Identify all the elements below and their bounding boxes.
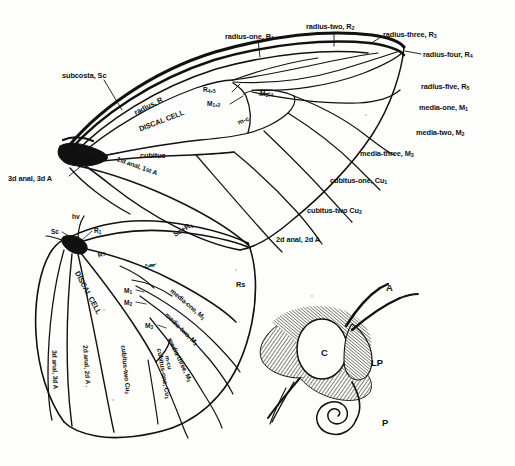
label-proboscis: P	[382, 418, 388, 427]
label-r-m: r-m	[145, 262, 154, 268]
forewing-radial-veins	[78, 51, 403, 157]
label-radius-two: radius-two, R2	[306, 23, 354, 32]
label-m1: M1	[124, 288, 132, 296]
label-labial-palp: LP	[371, 358, 383, 367]
label-radius-three: radius-three, R3	[383, 31, 437, 40]
head-detail-drawing	[260, 284, 418, 434]
label-cubitus-one: cubitus-one, Cu1	[330, 177, 387, 186]
label-second-anal: 2d anal, 2d A	[276, 236, 320, 243]
label-radius-one: radius-one, R1	[225, 33, 274, 42]
label-r1: R1	[94, 228, 101, 236]
label-sc: Sc	[51, 229, 59, 236]
label-rs-outer: Rs	[236, 281, 245, 288]
label-m34: M3+4	[260, 91, 273, 99]
wing-venation-figure: subcosta, Scradius, RDISCAL CELLcubitus1…	[0, 0, 515, 466]
label-r45: R4+5	[203, 87, 215, 95]
label-m2: M2	[124, 300, 132, 308]
label-humeral-vein: hv	[72, 214, 80, 221]
label-radius-five: radius-five, R5	[421, 83, 469, 92]
label-m12: M1+2	[207, 101, 220, 109]
label-cubitus: cubitus	[140, 152, 166, 159]
label-radius-four: radius-four, R4	[423, 51, 473, 60]
label-third-anal: 3d anal, 3d A	[8, 175, 52, 182]
label-antenna: A	[386, 283, 393, 292]
label-media-three: media-three, M3	[360, 150, 414, 159]
figure-artwork	[0, 0, 515, 466]
label-media-two: media-two, M2	[416, 129, 464, 138]
label-cubitus-two: cubitus-two Cu2	[307, 207, 362, 216]
label-subcosta: subcosta, Sc	[62, 72, 106, 79]
forewing-media-veins	[264, 96, 394, 222]
label-third-anal-h: 3d anal, 3d A	[50, 350, 58, 389]
label-compound-eye: C	[321, 348, 328, 357]
label-media-one: media-one, M1	[419, 104, 468, 113]
label-m3: M3	[145, 323, 153, 331]
